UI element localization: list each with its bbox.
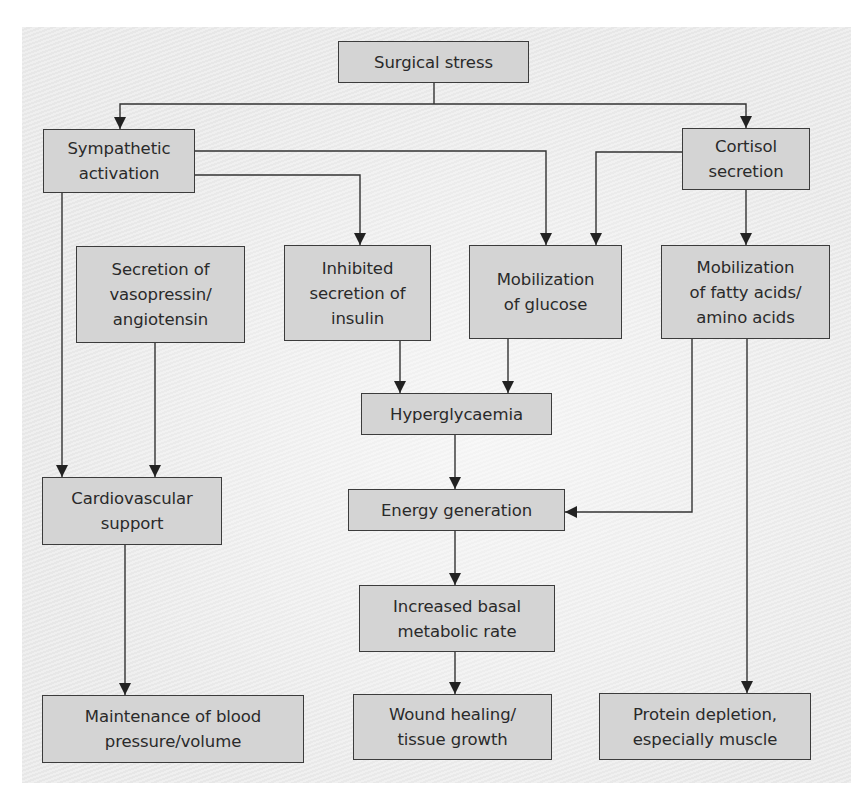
edge-stress-to-sympathetic [120,104,434,129]
node-sympathetic-activation: Sympathetic activation [43,129,195,193]
edge-sympathetic-to-insulin [195,175,360,245]
edge-sympathetic-to-glucose [195,151,546,245]
edge-stress-to-cortisol [434,104,746,128]
node-mobilization-fatty-acids: Mobilization of fatty acids/ amino acids [661,245,830,339]
node-mobilization-glucose: Mobilization of glucose [469,245,622,339]
node-protein-depletion: Protein depletion, especially muscle [599,693,811,760]
node-cortisol-secretion: Cortisol secretion [682,128,810,190]
node-cardiovascular-support: Cardiovascular support [42,477,222,545]
node-surgical-stress: Surgical stress [338,41,529,83]
node-inhibited-insulin: Inhibited secretion of insulin [284,245,431,341]
edge-fattyacids-to-energy [565,339,692,512]
node-vasopressin-secretion: Secretion of vasopressin/ angiotensin [76,246,245,343]
node-hyperglycaemia: Hyperglycaemia [361,393,552,435]
node-wound-healing: Wound healing/ tissue growth [353,694,552,760]
node-energy-generation: Energy generation [348,489,565,531]
node-increased-bmr: Increased basal metabolic rate [359,585,555,652]
node-maintenance-blood-pressure: Maintenance of blood pressure/volume [42,695,304,763]
edge-cortisol-to-glucose [596,152,682,245]
